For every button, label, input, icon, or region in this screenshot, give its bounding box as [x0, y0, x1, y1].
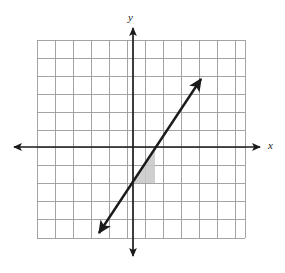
plotted-line: [99, 79, 201, 233]
grid-lines: [37, 40, 245, 238]
graph-canvas: [0, 0, 285, 273]
coordinate-plane-figure: y x: [0, 0, 285, 273]
x-axis-label: x: [268, 140, 273, 151]
y-axis-label: y: [128, 12, 133, 23]
